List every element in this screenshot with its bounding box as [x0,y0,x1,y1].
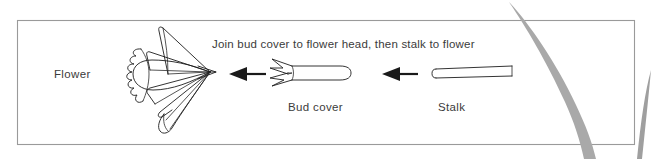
flower-illustration [127,27,216,133]
assembly-diagram: Join bud cover to flower head, then stal… [0,0,652,159]
bud-cover-illustration [270,59,351,86]
label-bud-cover: Bud cover [288,101,343,113]
stalk-illustration [432,66,512,78]
decorative-grass-blades [509,2,651,159]
grass-blade-small [637,70,651,159]
arrow-budcover-to-flower [229,67,266,81]
arrow-stalk-to-budcover [382,67,418,81]
label-stalk: Stalk [438,101,465,113]
grass-blade-large [509,2,596,159]
figure-page: Join bud cover to flower head, then stal… [0,0,652,159]
label-flower: Flower [54,68,91,80]
instruction-text: Join bud cover to flower head, then stal… [212,38,475,50]
